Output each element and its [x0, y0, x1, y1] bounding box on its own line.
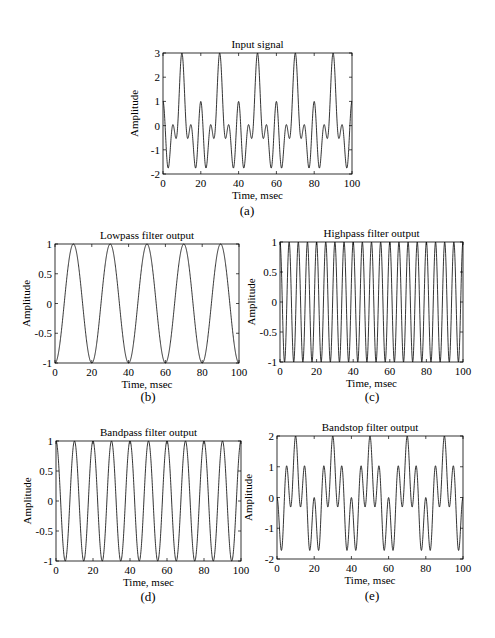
x-axis-label: Time, msec	[346, 377, 397, 389]
subfigure-caption: (d)	[140, 589, 155, 604]
x-tick-label: 60	[162, 564, 174, 576]
y-tick-label: -2	[265, 553, 274, 565]
y-tick-label: 1	[269, 461, 275, 473]
x-tick-label: 40	[233, 177, 245, 189]
x-tick-label: 100	[231, 366, 248, 378]
chart-title: Bandpass filter output	[100, 426, 197, 438]
subfigure-caption: (e)	[365, 588, 379, 603]
y-tick-label: -1	[151, 144, 160, 156]
series-line	[55, 244, 239, 363]
series-line	[280, 242, 463, 362]
series-line	[56, 441, 241, 561]
chart-title: Input signal	[231, 38, 283, 50]
y-tick-label: -1	[268, 356, 277, 368]
x-tick-label: 100	[233, 564, 250, 576]
y-axis-label: Amplitude	[242, 474, 254, 521]
x-tick-label: 20	[311, 365, 323, 377]
y-tick-label: 0	[269, 492, 275, 504]
y-tick-label: -1	[265, 522, 274, 534]
chart-d: 020406080100-1-0.500.51Bandpass filter o…	[21, 426, 250, 604]
x-tick-label: 40	[123, 366, 135, 378]
x-tick-label: 20	[309, 562, 321, 574]
subfigure-caption: (c)	[365, 389, 379, 404]
chart-a: 020406080100-2-10123Input signalTime, ms…	[128, 38, 361, 218]
x-tick-label: 60	[384, 365, 396, 377]
y-tick-label: -1	[43, 357, 52, 369]
chart-b: 020406080100-1-0.500.51Lowpass filter ou…	[20, 229, 248, 404]
series-line	[163, 53, 352, 168]
x-axis-label: Time, msec	[232, 189, 283, 201]
y-tick-label: -2	[151, 168, 160, 180]
x-tick-label: 0	[274, 562, 280, 574]
x-tick-label: 100	[344, 177, 361, 189]
x-tick-label: 0	[52, 366, 58, 378]
x-axis-label: Time, msec	[123, 576, 174, 588]
subfigure-caption: (b)	[140, 389, 155, 404]
y-tick-label: -0.5	[35, 327, 53, 339]
y-axis-label: Amplitude	[20, 280, 32, 327]
x-tick-label: 80	[197, 366, 209, 378]
axes-box	[277, 436, 463, 559]
y-tick-label: 1	[48, 435, 54, 447]
y-tick-label: 2	[155, 71, 161, 83]
x-tick-label: 60	[271, 177, 283, 189]
y-tick-label: 0	[48, 495, 54, 507]
x-tick-label: 100	[455, 562, 472, 574]
y-tick-label: -1	[44, 555, 53, 567]
axes-box	[163, 53, 352, 174]
axes-box	[56, 441, 241, 561]
x-axis-label: Time, msec	[345, 574, 396, 586]
y-tick-label: 0.5	[263, 266, 277, 278]
x-tick-label: 20	[86, 366, 98, 378]
y-tick-label: 0	[155, 120, 161, 132]
chart-c: 020406080100-1-0.500.51Highpass filter o…	[245, 227, 472, 404]
y-tick-label: 0.5	[39, 465, 53, 477]
x-tick-label: 0	[53, 564, 59, 576]
x-tick-label: 40	[348, 365, 360, 377]
x-tick-label: 0	[277, 365, 283, 377]
y-tick-label: 1	[155, 95, 161, 107]
y-tick-label: 3	[155, 47, 161, 59]
chart-title: Bandstop filter output	[322, 421, 419, 433]
y-tick-label: -0.5	[36, 525, 54, 537]
y-axis-label: Amplitude	[128, 90, 140, 137]
x-tick-label: 80	[199, 564, 211, 576]
axes-box	[280, 242, 463, 362]
chart-title: Highpass filter output	[324, 227, 420, 239]
x-tick-label: 60	[160, 366, 172, 378]
x-tick-label: 80	[421, 365, 433, 377]
y-tick-label: 1	[272, 236, 278, 248]
x-tick-label: 0	[160, 177, 166, 189]
y-axis-label: Amplitude	[21, 477, 33, 524]
figure-canvas: 020406080100-2-10123Input signalTime, ms…	[0, 0, 495, 638]
y-tick-label: 2	[269, 430, 275, 442]
y-tick-label: 0.5	[38, 268, 52, 280]
y-tick-label: 0	[47, 298, 53, 310]
x-tick-label: 20	[195, 177, 207, 189]
series-line	[277, 436, 463, 550]
y-axis-label: Amplitude	[245, 278, 257, 325]
x-tick-label: 20	[88, 564, 100, 576]
x-tick-label: 40	[125, 564, 137, 576]
y-tick-label: 1	[47, 238, 53, 250]
x-tick-label: 40	[346, 562, 358, 574]
subfigure-caption: (a)	[240, 203, 254, 218]
y-tick-label: 0	[272, 296, 278, 308]
chart-title: Lowpass filter output	[100, 229, 194, 241]
chart-e: 020406080100-2-1012Bandstop filter outpu…	[242, 421, 472, 603]
y-tick-label: -0.5	[260, 326, 278, 338]
x-tick-label: 60	[383, 562, 395, 574]
x-tick-label: 100	[455, 365, 472, 377]
x-tick-label: 80	[309, 177, 321, 189]
x-tick-label: 80	[420, 562, 432, 574]
